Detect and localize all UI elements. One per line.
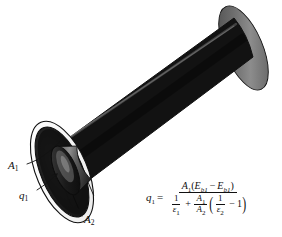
inner-surface-area-label: A1	[8, 160, 18, 171]
denominator-one: 1	[237, 199, 242, 209]
equation-lhs-symbol: q	[146, 191, 152, 203]
denominator-fraction-3: 1 ε2	[215, 194, 226, 214]
denominator-open-paren: (	[209, 197, 213, 210]
denominator-parenthesized-group: ( 1 ε2 − 1 )	[209, 194, 246, 214]
numerator-area-symbol: A	[182, 180, 188, 191]
denom-frac3-numerator: 1	[216, 194, 225, 205]
label-a1-symbol: A	[8, 159, 15, 171]
denom-frac3-epsilon-subscript: 2	[220, 209, 224, 217]
label-a1-subscript: 1	[15, 164, 19, 173]
numerator-term2-subscript: b1	[223, 186, 230, 194]
denom-frac2-area-subscript: 1	[202, 198, 206, 206]
numerator-term1-subscript: b1	[201, 186, 208, 194]
denom-frac3-denominator: ε2	[215, 205, 226, 215]
equation-lhs-subscript: 1	[152, 198, 156, 206]
label-q1-symbol: q	[19, 189, 25, 201]
denom-frac2-numerator: A1	[194, 194, 207, 205]
denom-frac2-area-2-subscript: 2	[202, 209, 206, 217]
radiation-heat-transfer-equation: q1 = A1(Eb1−Eb1) 1 ε1 + A1 A2 (	[146, 181, 249, 214]
numerator-term1-symbol: E	[195, 180, 201, 191]
label-a2-subscript: 2	[91, 218, 95, 227]
denom-frac1-epsilon-subscript: 1	[176, 209, 180, 217]
denominator-close-paren: )	[242, 197, 246, 210]
outer-surface-area-label: A2	[84, 214, 94, 225]
denominator-fraction-2: A1 A2	[194, 194, 207, 214]
equation-lhs: q1	[146, 192, 155, 203]
equation-relation: =	[157, 192, 163, 203]
denom-frac1-numerator: 1	[172, 194, 181, 205]
numerator-operator: −	[210, 180, 216, 191]
label-a2-symbol: A	[84, 213, 91, 225]
barrel-lower-shadow	[57, 38, 243, 172]
equation-numerator: A1(Eb1−Eb1)	[179, 181, 237, 193]
denom-frac2-denominator: A2	[194, 205, 207, 215]
numerator-area-subscript: 1	[188, 186, 192, 194]
equation-fraction: A1(Eb1−Eb1) 1 ε1 + A1 A2 ( 1 ε2	[166, 181, 249, 214]
label-q1-subscript: 1	[25, 194, 29, 203]
denominator-fraction-1: 1 ε1	[171, 194, 182, 214]
heat-rate-label: q1	[19, 190, 28, 201]
figure-container: A1 q1 A2 q1 = A1(Eb1−Eb1) 1 ε1 + A1	[0, 0, 282, 237]
equation-denominator: 1 ε1 + A1 A2 ( 1 ε2 − 1 )	[166, 193, 249, 214]
denom-frac1-denominator: ε1	[171, 205, 182, 215]
numerator-close-paren: )	[230, 180, 233, 191]
denominator-minus-operator: −	[229, 199, 235, 209]
denominator-plus-operator: +	[185, 199, 191, 209]
